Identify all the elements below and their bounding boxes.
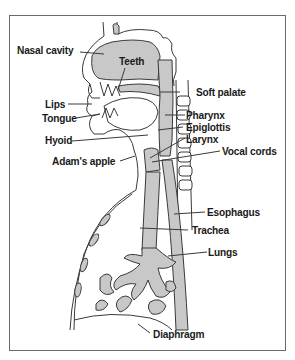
trachea-tube: [142, 172, 160, 250]
label-adams-apple: Adam's apple: [52, 155, 115, 167]
label-nasal-cavity: Nasal cavity: [17, 44, 73, 56]
sinus: [113, 24, 119, 34]
label-teeth: Teeth: [119, 55, 144, 67]
pharynx-tube: [158, 60, 173, 156]
label-soft-palate: Soft palate: [196, 86, 246, 98]
label-hyoid: Hyoid: [45, 134, 72, 146]
label-lips: Lips: [45, 98, 65, 110]
lungs-tree: [114, 248, 176, 300]
label-diaphragm: Diaphragm: [153, 328, 204, 340]
label-tongue: Tongue: [42, 112, 77, 124]
label-esophagus: Esophagus: [207, 206, 260, 218]
larynx-shape: [144, 148, 160, 172]
upper-teeth: [100, 82, 120, 96]
label-trachea: Trachea: [192, 224, 229, 236]
label-larynx: Larynx: [186, 133, 218, 145]
palate: [118, 84, 161, 96]
label-pharynx: Pharynx: [186, 109, 225, 121]
label-epiglottis: Epiglottis: [186, 121, 230, 133]
chin-jaw: [89, 116, 120, 134]
label-vocal-cords: Vocal cords: [222, 145, 277, 157]
label-lungs: Lungs: [208, 246, 237, 258]
